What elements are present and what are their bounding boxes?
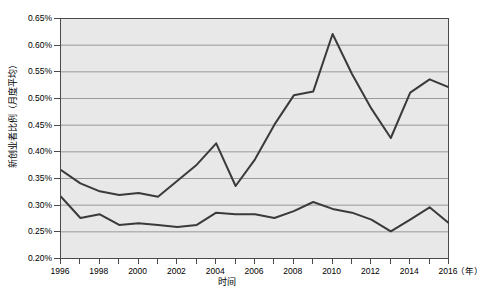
plot-svg [61,18,449,258]
x-axis-tick-mark [196,259,197,264]
y-axis-tick-label: 0.30% [8,200,52,210]
x-axis-tick-mark [312,259,313,264]
y-axis-tick-label: 0.45% [8,120,52,130]
y-axis-tick-labels: 0.20%0.25%0.30%0.35%0.40%0.45%0.50%0.55%… [0,0,52,290]
x-axis-unit-label: （年） [456,266,483,276]
x-axis-tick-mark [370,259,371,264]
y-axis-tick-label: 0.20% [8,253,52,263]
x-axis-tick-mark [390,259,391,264]
x-axis-tick-mark [157,259,158,264]
y-axis-tick-label: 0.50% [8,93,52,103]
x-axis-tick-mark [138,259,139,264]
x-axis-tick-mark [254,259,255,264]
x-axis-tick-mark [60,259,61,264]
y-axis-tick-label: 0.55% [8,66,52,76]
x-axis-tick-mark [448,259,449,264]
series-line-1 [61,34,449,197]
y-axis-tick-label: 0.35% [8,173,52,183]
data-lines [61,34,449,231]
x-axis-tick-mark [99,259,100,264]
y-axis-tick-label: 0.40% [8,146,52,156]
x-axis-tick-mark [79,259,80,264]
plot-area [60,18,449,259]
y-axis-tick-label: 0.60% [8,40,52,50]
x-axis-tick-mark [409,259,410,264]
x-axis-title: 时间 [0,277,494,288]
x-axis-title-text: 时间 [218,277,236,288]
x-axis-tick-mark [176,259,177,264]
chart-container: 新创业者比例（月度平均） 0.20%0.25%0.30%0.35%0.40%0.… [0,0,494,290]
x-axis-tick-mark [215,259,216,264]
series-line-2 [61,197,449,232]
y-axis-tick-label: 0.25% [8,226,52,236]
x-axis-tick-mark [273,259,274,264]
x-axis-tick-mark [293,259,294,264]
x-axis-tick-mark [332,259,333,264]
y-axis-tick-label: 0.65% [8,13,52,23]
x-axis-tick-mark [118,259,119,264]
x-axis-tick-mark [429,259,430,264]
x-axis-tick-mark [235,259,236,264]
x-axis-tick-mark [351,259,352,264]
